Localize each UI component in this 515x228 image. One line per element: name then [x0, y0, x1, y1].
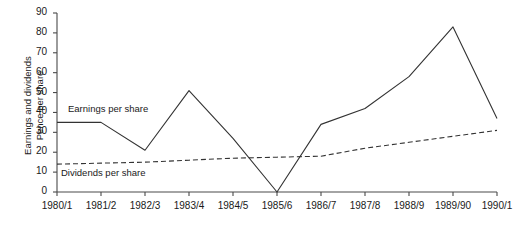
chart-container: Earnings and dividends Pence per share 0… [0, 0, 515, 228]
series-annotation-earnings: Earnings per share [68, 103, 148, 114]
series-annotation-dividends: Dividends per share [61, 167, 146, 178]
series-line-dividends [57, 130, 497, 164]
